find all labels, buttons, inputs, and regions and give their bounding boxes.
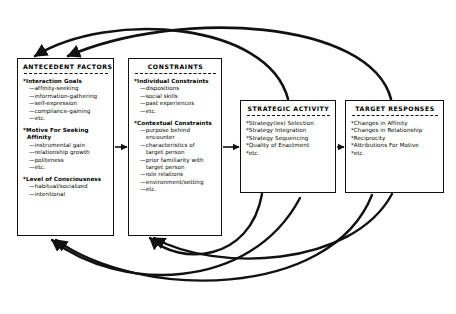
arc-target-to-antecedent-top <box>68 28 391 99</box>
list-item: *etc. <box>246 150 331 157</box>
list-item: *Changes in Affinity <box>351 120 439 127</box>
list-item: —role relations <box>134 171 217 178</box>
list-item: —intentional <box>23 191 109 198</box>
list-item: —etc. <box>134 108 217 115</box>
list-item: *Strategy Integration <box>246 127 331 134</box>
list-item: *Attributions For Motive <box>351 142 439 149</box>
list-item: —etc. <box>23 115 109 122</box>
box-target-responses: TARGET RESPONSES *Changes in Affinity *C… <box>345 100 444 193</box>
box-strategic-activity-title: STRATEGIC ACTIVITY <box>246 104 331 113</box>
box-constraints-body: *Individual Constraints —dispositions —s… <box>134 78 217 194</box>
list-item: —self-expression <box>23 100 109 107</box>
list-item: *etc. <box>351 150 439 157</box>
list-item: —purpose behind <box>134 127 217 134</box>
list-item: —instrumental gain <box>23 142 109 149</box>
list-item: —information-gathering <box>23 93 109 100</box>
list-item: *Strategy Sequencing <box>246 135 331 142</box>
diagram-canvas: ANTECEDENT FACTORS *Interaction Goals —a… <box>0 0 456 314</box>
box-constraints: CONSTRAINTS *Individual Constraints —dis… <box>128 58 222 236</box>
list-item-continuation: target person <box>134 149 217 156</box>
list-item: —politeness <box>23 157 109 164</box>
group-heading-motive-for-seeking: *Motive For Seeking <box>23 127 109 134</box>
list-item: —social skills <box>134 93 217 100</box>
list-item: —prior familiarity with <box>134 157 217 164</box>
list-item: —past experiences <box>134 100 217 107</box>
box-strategic-activity-body: *Strategy(ies) Selection *Strategy Integ… <box>246 120 331 157</box>
box-antecedent-factors-title: ANTECEDENT FACTORS <box>23 62 109 71</box>
title-divider <box>135 73 216 74</box>
box-antecedent-factors: ANTECEDENT FACTORS *Interaction Goals —a… <box>17 58 114 236</box>
list-item: —environment/setting <box>134 179 217 186</box>
list-item: —habitual/socialized <box>23 183 109 190</box>
box-target-responses-body: *Changes in Affinity *Changes in Relatio… <box>351 120 439 157</box>
box-strategic-activity: STRATEGIC ACTIVITY *Strategy(ies) Select… <box>240 100 336 193</box>
group-heading-interaction-goals: *Interaction Goals <box>23 78 109 85</box>
list-item: —dispositions <box>134 85 217 92</box>
box-antecedent-factors-body: *Interaction Goals —affinity-seeking —in… <box>23 78 109 198</box>
title-divider <box>352 115 438 116</box>
list-item: —etc. <box>23 164 109 171</box>
list-item: *Strategy(ies) Selection <box>246 120 331 127</box>
box-target-responses-title: TARGET RESPONSES <box>351 104 439 113</box>
group-heading-motive-line2: Affinity <box>23 134 109 141</box>
list-item: —affinity-seeking <box>23 85 109 92</box>
list-item: —relationship growth <box>23 149 109 156</box>
title-divider <box>24 73 108 74</box>
list-item: —characteristics of <box>134 142 217 149</box>
list-item: —etc. <box>134 186 217 193</box>
title-divider <box>247 115 330 116</box>
list-item: —compliance-gaining <box>23 108 109 115</box>
box-constraints-title: CONSTRAINTS <box>134 62 217 71</box>
list-item-continuation: target person <box>134 164 217 171</box>
list-item-continuation: encounter <box>134 134 217 141</box>
list-item: *Reciprocity <box>351 135 439 142</box>
list-item: *Quality of Enactment <box>246 142 331 149</box>
group-heading-contextual-constraints: *Contextual Constraints <box>134 120 217 127</box>
group-heading-individual-constraints: *Individual Constraints <box>134 78 217 85</box>
group-heading-level-of-consciousness: *Level of Consciousness <box>23 176 109 183</box>
list-item: *Changes in Relationship <box>351 127 439 134</box>
